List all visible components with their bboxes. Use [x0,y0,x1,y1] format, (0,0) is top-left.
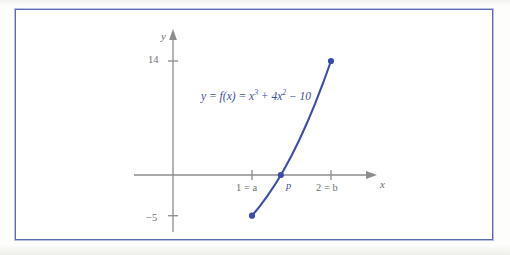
x-tick-label-a: 1 = a [236,182,257,193]
root-point-label: p [286,180,291,191]
endpoint-lower-marker [249,213,255,219]
y-tick-label-neg5: −5 [146,212,157,223]
plot-area: y x 14 −5 1 = a 2 = b p y = f(x) = x3 + … [16,10,494,241]
graph-svg [16,10,494,241]
figure-frame: y x 14 −5 1 = a 2 = b p y = f(x) = x3 + … [15,9,493,240]
equation-mid: + 4x [258,90,282,102]
equation-prefix: y = f(x) = x [201,90,254,102]
page-edge-top [0,0,510,6]
x-tick-label-b: 2 = b [316,182,338,193]
y-axis-label: y [161,30,166,42]
x-axis-label: x [380,178,385,190]
root-point-marker [278,172,284,178]
equation-label: y = f(x) = x3 + 4x2 − 10 [201,88,311,102]
figure-page: y x 14 −5 1 = a 2 = b p y = f(x) = x3 + … [0,0,510,255]
equation-suffix: − 10 [286,90,311,102]
page-edge-bottom [0,245,510,255]
y-axis-arrowhead [169,29,177,40]
endpoint-upper-marker [328,58,334,64]
x-axis-arrowhead [366,171,377,179]
y-tick-label-14: 14 [148,54,159,65]
